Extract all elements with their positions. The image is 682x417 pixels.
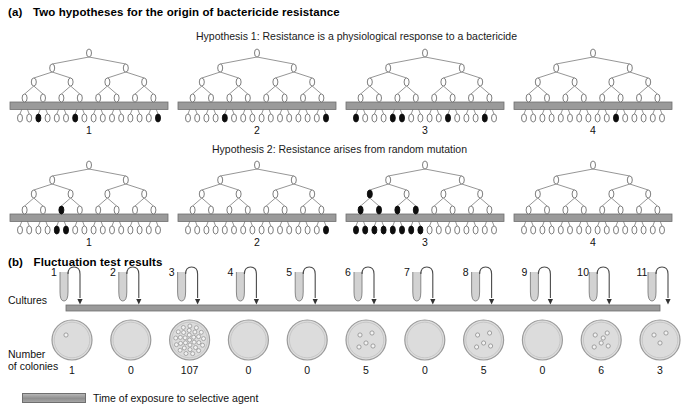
- petri-dish-4: [228, 320, 268, 360]
- tree-node-l3-5: [96, 206, 101, 214]
- tree-leaf-4: [213, 114, 218, 122]
- tree-node-l3-2: [41, 94, 46, 102]
- tree-leaf-11: [446, 114, 451, 122]
- tree-leaf-12: [623, 226, 628, 234]
- tree-leaf-5: [390, 226, 395, 234]
- tree-node-l3-1: [190, 206, 195, 214]
- tree-leaf-6: [568, 114, 573, 122]
- tree-node-l3-5: [432, 206, 437, 214]
- tree-leaf-1: [186, 226, 191, 234]
- tree-node-l1-2: [627, 64, 632, 72]
- tree-node-l3-8: [319, 94, 324, 102]
- lineage-tree-4: [514, 46, 672, 132]
- tree-leaf-12: [119, 114, 124, 122]
- tree-leaf-1: [186, 114, 191, 122]
- tree-node-l3-7: [133, 206, 138, 214]
- selective-agent-bar: [178, 214, 336, 222]
- tree-leaf-3: [204, 114, 209, 122]
- tree-node-l3-1: [358, 206, 363, 214]
- panel-a-heading: (a) Two hypotheses for the origin of bac…: [8, 6, 340, 18]
- transfer-arrowhead-8: [489, 299, 494, 305]
- tree-leaf-16: [324, 226, 329, 234]
- tree-node-l2-2: [236, 78, 241, 86]
- tree-node-l3-3: [395, 94, 400, 102]
- tree-node-l2-2: [68, 190, 73, 198]
- transfer-arrowhead-6: [371, 299, 376, 305]
- culture-tube-6: [354, 272, 362, 301]
- tree-leaf-1: [354, 114, 359, 122]
- selective-agent-bar: [346, 102, 504, 110]
- tree-node-l2-3: [273, 78, 278, 86]
- transfer-arrowhead-9: [548, 299, 553, 305]
- tree-leaf-8: [418, 226, 423, 234]
- tree-node-l2-3: [273, 190, 278, 198]
- tree-leaf-6: [232, 226, 237, 234]
- culture-unit-4: [228, 267, 268, 360]
- tree-leaf-14: [473, 114, 478, 122]
- tree-leaf-5: [390, 114, 395, 122]
- tree-leaf-2: [531, 114, 536, 122]
- tree-leaf-1: [18, 114, 23, 122]
- tree-leaf-6: [64, 114, 69, 122]
- transfer-arrow-5: [303, 267, 315, 298]
- transfer-arrowhead-3: [195, 299, 200, 305]
- tree-node-l3-1: [358, 94, 363, 102]
- tree-node-l3-6: [618, 206, 623, 214]
- tree-leaf-13: [464, 114, 469, 122]
- tree-leaf-1: [522, 114, 527, 122]
- tree-leaf-3: [36, 226, 41, 234]
- tree-node-l3-7: [469, 206, 474, 214]
- tree-leaf-11: [446, 226, 451, 234]
- transfer-arrow-11: [656, 267, 668, 298]
- tree-node-l1-1: [554, 64, 559, 72]
- tree-node-l3-5: [264, 206, 269, 214]
- tree-leaf-12: [119, 226, 124, 234]
- tree-leaf-7: [409, 226, 414, 234]
- selective-agent-bar: [346, 214, 504, 222]
- culture-unit-10: [581, 267, 621, 360]
- tree-leaf-4: [549, 226, 554, 234]
- tree-number-2: 2: [178, 124, 336, 136]
- tree-node-l2-4: [478, 78, 483, 86]
- tree-node-l2-4: [646, 190, 651, 198]
- tree-number-1: 1: [10, 236, 168, 248]
- tree-leaf-14: [641, 226, 646, 234]
- tree-node-l2-3: [105, 78, 110, 86]
- transfer-arrow-8: [480, 267, 492, 298]
- colonies-1: [64, 333, 68, 337]
- selective-agent-bar: [178, 102, 336, 110]
- tree-node-root: [255, 161, 260, 169]
- tree-node-l2-2: [404, 190, 409, 198]
- lineage-tree-4: [514, 158, 672, 244]
- tree-leaf-9: [427, 114, 432, 122]
- tree-node-l2-3: [609, 78, 614, 86]
- tree-leaf-4: [213, 226, 218, 234]
- tree-node-l3-8: [655, 94, 660, 102]
- tree-node-l1-1: [218, 64, 223, 72]
- tree-node-l3-1: [22, 94, 27, 102]
- hypothesis-1-trees: 1234: [0, 46, 682, 132]
- culture-tube-1: [60, 272, 68, 301]
- tree-leaf-16: [324, 114, 329, 122]
- tree-node-l1-2: [291, 64, 296, 72]
- fluctuation-test-plate-array: 11203107405065708590106113: [0, 262, 682, 382]
- transfer-arrow-7: [421, 267, 433, 298]
- tree-node-l1-1: [50, 176, 55, 184]
- tree-node-l3-7: [301, 94, 306, 102]
- tree-number-3: 3: [346, 124, 504, 136]
- tree-number-2: 2: [178, 236, 336, 248]
- petri-dish-2: [111, 320, 151, 360]
- tree-node-l2-1: [535, 78, 540, 86]
- tree-node-l3-7: [469, 94, 474, 102]
- tree-node-l2-3: [609, 190, 614, 198]
- tree-leaf-9: [427, 226, 432, 234]
- tree-number-3: 3: [346, 236, 504, 248]
- tree-leaf-11: [278, 114, 283, 122]
- lineage-tree-2: [178, 46, 336, 132]
- lineage-tree-1: [10, 158, 168, 244]
- tree-node-l2-4: [646, 78, 651, 86]
- tree-leaf-6: [64, 226, 69, 234]
- culture-unit-1: [52, 267, 92, 360]
- tree-node-l2-1: [535, 190, 540, 198]
- tree-node-l3-5: [264, 94, 269, 102]
